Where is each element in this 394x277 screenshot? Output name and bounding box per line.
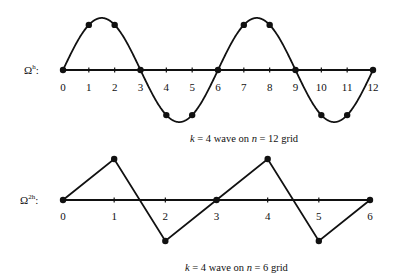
grid-point xyxy=(292,67,298,73)
grid-point xyxy=(111,156,117,162)
tick-label: 5 xyxy=(316,210,322,222)
grid-point xyxy=(137,67,143,73)
grid-point xyxy=(367,197,373,203)
tick-label: 6 xyxy=(215,81,221,93)
tick-label: 4 xyxy=(265,210,271,222)
fine-grid-caption: k = 4 wave on n = 12 grid xyxy=(190,133,299,144)
grid-point xyxy=(266,22,272,28)
tick-label: 10 xyxy=(316,81,328,93)
grid-point xyxy=(344,112,350,118)
coarse-grid-plot: 0123456 xyxy=(60,156,373,244)
tick-label: 2 xyxy=(163,210,169,222)
aliasing-diagram: 0123456789101112 Ωh: k = 4 wave on n = 1… xyxy=(0,0,394,277)
tick-label: 5 xyxy=(189,81,195,93)
tick-label: 4 xyxy=(164,81,170,93)
grid-point xyxy=(86,22,92,28)
coarse-grid-caption: k = 4 wave on n = 6 grid xyxy=(185,262,289,273)
tick-label: 9 xyxy=(293,81,299,93)
coarse-grid-label: Ω2h: xyxy=(20,193,38,206)
grid-point xyxy=(60,67,66,73)
tick-label: 1 xyxy=(86,81,92,93)
grid-point xyxy=(213,197,219,203)
fine-grid-label: Ωh: xyxy=(24,63,39,76)
tick-label: 1 xyxy=(111,210,117,222)
grid-point xyxy=(241,22,247,28)
grid-point xyxy=(163,112,169,118)
tick-label: 3 xyxy=(138,81,144,93)
tick-label: 2 xyxy=(112,81,118,93)
grid-point xyxy=(318,112,324,118)
grid-point xyxy=(60,197,66,203)
tick-label: 3 xyxy=(214,210,220,222)
grid-point xyxy=(264,156,270,162)
grid-point xyxy=(215,67,221,73)
fine-grid-plot: 0123456789101112 xyxy=(60,18,379,122)
grid-point xyxy=(162,238,168,244)
tick-label: 0 xyxy=(60,210,66,222)
grid-point xyxy=(189,112,195,118)
grid-point xyxy=(370,67,376,73)
grid-point xyxy=(111,22,117,28)
tick-label: 6 xyxy=(367,210,373,222)
tick-label: 7 xyxy=(241,81,247,93)
grid-point xyxy=(316,238,322,244)
tick-label: 0 xyxy=(60,81,66,93)
tick-label: 12 xyxy=(368,81,379,93)
tick-label: 8 xyxy=(267,81,273,93)
tick-label: 11 xyxy=(342,81,353,93)
